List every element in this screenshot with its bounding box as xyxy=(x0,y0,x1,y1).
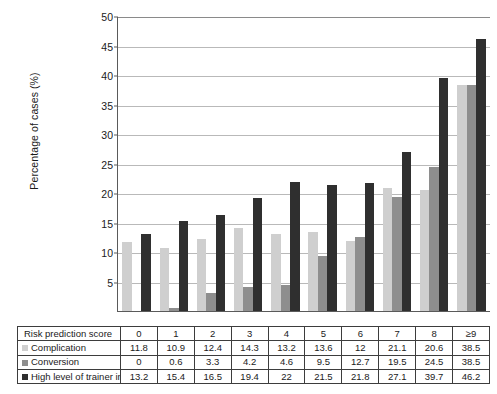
y-tick-label: 20 xyxy=(101,188,113,200)
legend-label-text: High level of trainer input xyxy=(31,371,121,382)
data-table: Risk prediction score012345678≥9Complica… xyxy=(17,326,490,384)
bar xyxy=(346,241,356,312)
column-header: ≥9 xyxy=(453,327,490,341)
table-row: Complication11.810.912.414.313.213.61221… xyxy=(18,341,490,355)
table-cell: 14.3 xyxy=(231,341,268,355)
table-cell: 19.4 xyxy=(231,369,268,383)
bar xyxy=(355,237,365,312)
bar-group xyxy=(155,17,192,312)
table-cell: 4.2 xyxy=(231,355,268,369)
bar xyxy=(141,234,151,312)
bar xyxy=(420,190,430,312)
bar xyxy=(467,85,477,312)
table-cell: 12.7 xyxy=(342,355,379,369)
table-cell: 46.2 xyxy=(453,369,490,383)
bar xyxy=(457,85,467,312)
bar xyxy=(439,78,449,312)
table-header-row: Risk prediction score012345678≥9 xyxy=(18,327,490,341)
table-cell: 0.6 xyxy=(157,355,194,369)
legend-swatch-icon xyxy=(22,374,28,380)
table-cell: 20.6 xyxy=(416,341,453,355)
legend-row-label: Conversion xyxy=(18,355,121,369)
legend-row-label: High level of trainer input xyxy=(18,369,121,383)
table-cell: 4.6 xyxy=(268,355,305,369)
table-cell: 22 xyxy=(268,369,305,383)
table-cell: 38.5 xyxy=(453,355,490,369)
bar-group xyxy=(192,17,229,312)
table-header-label: Risk prediction score xyxy=(18,327,121,341)
bar-group xyxy=(416,17,453,312)
bar xyxy=(253,198,263,312)
column-header: 4 xyxy=(268,327,305,341)
bar xyxy=(216,215,226,312)
column-header: 7 xyxy=(379,327,416,341)
table-cell: 13.6 xyxy=(305,341,342,355)
bar xyxy=(476,39,486,312)
bar-group xyxy=(378,17,415,312)
table-cell: 27.1 xyxy=(379,369,416,383)
bar xyxy=(243,287,253,312)
table-cell: 0 xyxy=(121,355,158,369)
bar xyxy=(206,293,216,312)
bar xyxy=(160,248,170,312)
legend-swatch-icon xyxy=(22,345,28,351)
bar-group xyxy=(453,17,490,312)
bar-chart: Percentage of cases (%) 5101520253035404… xyxy=(0,0,497,325)
legend-label-text: Complication xyxy=(31,342,86,353)
plot-area: 5101520253035404550 xyxy=(117,17,490,312)
bar xyxy=(271,234,281,312)
bar xyxy=(179,221,189,312)
bar-group xyxy=(230,17,267,312)
y-tick-label: 45 xyxy=(101,41,113,53)
bar xyxy=(318,256,328,312)
bar xyxy=(197,239,207,312)
table-cell: 13.2 xyxy=(268,341,305,355)
column-header: 2 xyxy=(194,327,231,341)
bar xyxy=(365,183,375,312)
table-cell: 15.4 xyxy=(157,369,194,383)
bar xyxy=(429,167,439,312)
bar xyxy=(308,232,318,312)
table-cell: 10.9 xyxy=(157,341,194,355)
y-tick-label: 35 xyxy=(101,100,113,112)
table-cell: 21.1 xyxy=(379,341,416,355)
bar-group xyxy=(341,17,378,312)
table-cell: 13.2 xyxy=(121,369,158,383)
bar xyxy=(402,152,412,312)
table-cell: 39.7 xyxy=(416,369,453,383)
y-tick-label: 5 xyxy=(107,277,113,289)
chart-page: Percentage of cases (%) 5101520253035404… xyxy=(0,0,497,394)
table-cell: 24.5 xyxy=(416,355,453,369)
table-cell: 19.5 xyxy=(379,355,416,369)
table-cell: 12 xyxy=(342,341,379,355)
table-row: High level of trainer input13.215.416.51… xyxy=(18,369,490,383)
y-tick-label: 50 xyxy=(101,11,113,23)
table-cell: 3.3 xyxy=(194,355,231,369)
bar xyxy=(383,188,393,312)
bar-group xyxy=(118,17,155,312)
table-cell: 21.5 xyxy=(305,369,342,383)
column-header: 5 xyxy=(305,327,342,341)
y-tick-label: 40 xyxy=(101,70,113,82)
y-tick-label: 10 xyxy=(101,247,113,259)
table-cell: 21.8 xyxy=(342,369,379,383)
bar xyxy=(392,197,402,312)
x-axis-line xyxy=(117,311,490,312)
y-tick-label: 15 xyxy=(101,218,113,230)
column-header: 6 xyxy=(342,327,379,341)
column-header: 0 xyxy=(121,327,158,341)
bar xyxy=(122,242,132,312)
bar-series-container xyxy=(118,17,490,312)
y-tick-label: 30 xyxy=(101,129,113,141)
column-header: 8 xyxy=(416,327,453,341)
bar xyxy=(234,228,244,312)
column-header: 3 xyxy=(231,327,268,341)
table-cell: 11.8 xyxy=(121,341,158,355)
bar xyxy=(281,285,291,312)
legend-row-label: Complication xyxy=(18,341,121,355)
legend-swatch-icon xyxy=(22,360,28,366)
bar xyxy=(327,185,337,312)
column-header: 1 xyxy=(157,327,194,341)
legend-label-text: Conversion xyxy=(31,356,79,367)
bar xyxy=(290,182,300,312)
